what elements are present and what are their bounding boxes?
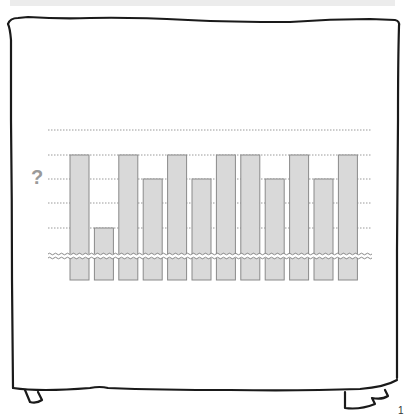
- bar: [70, 155, 89, 280]
- chart-canvas: [0, 0, 406, 418]
- bar: [290, 155, 309, 280]
- bar: [265, 179, 284, 280]
- bar: [216, 155, 235, 280]
- bar: [241, 155, 260, 280]
- bar: [338, 155, 357, 280]
- bar: [143, 179, 162, 280]
- bar-series: [70, 155, 357, 280]
- axis-break: [46, 253, 374, 259]
- bar: [314, 179, 333, 280]
- bar: [119, 155, 138, 280]
- bar: [192, 179, 211, 280]
- bar: [168, 155, 187, 280]
- y-axis-label: ?: [31, 166, 43, 189]
- page-number: 1: [398, 405, 404, 416]
